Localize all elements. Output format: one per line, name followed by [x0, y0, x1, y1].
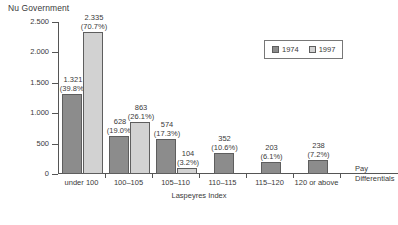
pay-differentials-line1: Pay [355, 164, 368, 173]
bar-percent: (10.6%) [211, 143, 237, 152]
x-axis-category-label: 120 or above [295, 178, 339, 187]
legend-label-1997: 1997 [319, 45, 336, 54]
legend-label-1974: 1974 [282, 45, 299, 54]
bar-value: 203 [265, 143, 278, 152]
y-axis-tick-label: 0 [45, 169, 49, 178]
legend-entry-1974: 1974 [272, 45, 299, 54]
bar-1997-100–105 [130, 122, 150, 174]
y-axis-tick-label: 1.500 [30, 78, 49, 87]
bar-value: 863 [135, 103, 148, 112]
x-axis-category-label: 100–105 [114, 178, 143, 187]
bar-value-label: 352(10.6%) [211, 134, 237, 152]
x-axis-category-label: 105–110 [161, 178, 190, 187]
pay-differentials-annotation: Pay Differentials [355, 164, 394, 183]
y-axis-tick-label: 500 [36, 139, 49, 148]
bar-percent: (70.7%) [81, 22, 107, 31]
bar-chart: Nu Government 1.321(39.8%)2.335(70.7%)62… [0, 0, 398, 225]
x-axis-tick [199, 174, 200, 178]
y-axis-tick-label: 2.500 [30, 17, 49, 26]
bar-1974-110–115 [214, 153, 234, 174]
bar-1997-under-100 [83, 32, 103, 174]
bar-1974-100–105 [109, 136, 129, 174]
y-axis-tick: 2.000 [52, 52, 58, 53]
x-axis-category-label: 115–120 [255, 178, 284, 187]
bar-value: 628 [114, 117, 127, 126]
pay-differentials-line2: Differentials [355, 174, 394, 183]
bar-value: 1.321 [64, 75, 83, 84]
y-axis-tick: 500 [52, 144, 58, 145]
bar-percent: (7.2%) [307, 150, 329, 159]
x-axis-title: Laspeyres Index [58, 191, 340, 200]
bar-1974-120-or-above [308, 160, 328, 174]
y-axis-tick: 2.500 [52, 22, 58, 23]
y-axis-tick: 1.500 [52, 83, 58, 84]
x-axis-tick [105, 174, 106, 178]
x-axis-category-label: under 100 [65, 178, 99, 187]
bar-value: 574 [161, 120, 174, 129]
bar-1997-105–110 [177, 168, 197, 174]
bar-value: 2.335 [85, 13, 104, 22]
bar-percent: (3.2%) [177, 158, 199, 167]
x-axis-tick [246, 174, 247, 178]
bar-value-label: 104(3.2%) [177, 149, 199, 167]
bar-value: 104 [182, 149, 195, 158]
y-axis-tick-label: 2.000 [30, 47, 49, 56]
bar-value-label: 203(6.1%) [260, 143, 282, 161]
legend-swatch-icon-1974 [272, 46, 279, 53]
bar-1974-115–120 [261, 162, 281, 174]
legend-swatch-icon-1997 [309, 46, 316, 53]
y-axis-tick: 0 [52, 174, 58, 175]
bar-value-label: 574(17.3%) [154, 120, 180, 138]
y-axis-tick: 1.000 [52, 113, 58, 114]
bar-value-label: 238(7.2%) [307, 141, 329, 159]
bar-1974-under-100 [62, 94, 82, 174]
bar-percent: (26.1%) [128, 112, 154, 121]
chart-legend: 1974 1997 [264, 40, 343, 59]
bar-value-label: 2.335(70.7%) [81, 13, 107, 31]
bar-1974-105–110 [156, 139, 176, 174]
bar-value: 352 [218, 134, 231, 143]
x-axis-tick [152, 174, 153, 178]
bar-percent: (17.3%) [154, 129, 180, 138]
chart-title: Nu Government [8, 3, 69, 13]
bar-percent: (6.1%) [260, 152, 282, 161]
x-axis-tick [340, 174, 341, 178]
x-axis-category-label: 110–115 [208, 178, 236, 187]
legend-entry-1997: 1997 [309, 45, 336, 54]
bar-value-label: 863(26.1%) [128, 103, 154, 121]
bar-value: 238 [312, 141, 325, 150]
y-axis-tick-label: 1.000 [30, 108, 49, 117]
